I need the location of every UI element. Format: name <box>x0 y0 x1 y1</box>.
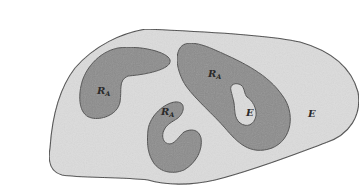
label-sub: A <box>169 111 174 119</box>
diagram-canvas <box>0 0 362 196</box>
label-middle-c-ra: RA <box>161 107 174 119</box>
set-diagram: RA RA RA E E <box>0 0 362 196</box>
label-left-blob-ra: RA <box>97 86 110 98</box>
label-right-blob-ra: RA <box>208 69 221 81</box>
label-hole-e: E <box>246 108 254 118</box>
label-sub: A <box>216 73 221 81</box>
label-sub: A <box>105 90 110 98</box>
label-outer-e: E <box>308 109 316 119</box>
